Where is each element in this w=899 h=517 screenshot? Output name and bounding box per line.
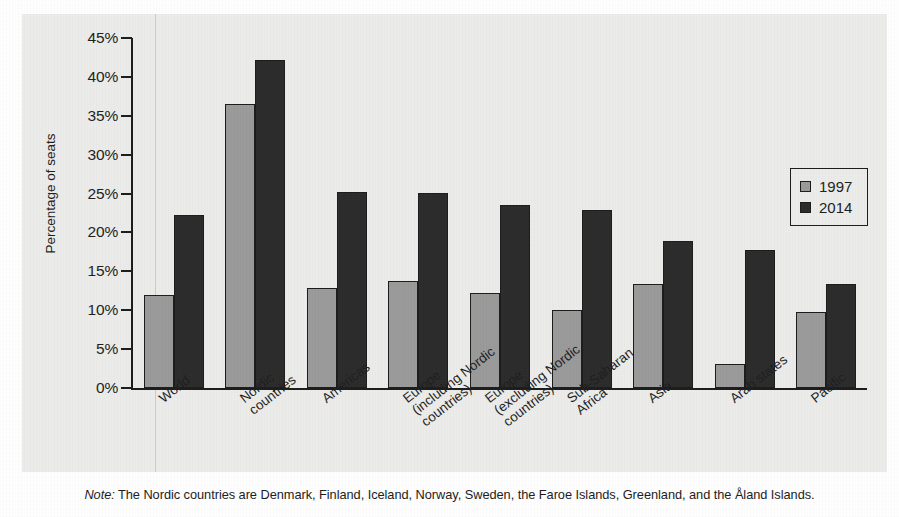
- y-axis-tick-label-text: 10%: [18, 301, 118, 319]
- legend-label-1997: 1997: [819, 178, 852, 195]
- y-axis-tick-label-text: 30%: [18, 146, 118, 164]
- chart-note: Note: The Nordic countries are Denmark, …: [0, 487, 899, 502]
- y-axis-tick-label: 30%: [14, 146, 118, 164]
- legend-item-1997[interactable]: 1997: [800, 176, 859, 197]
- plot-area: [133, 38, 867, 388]
- y-axis-tick-label: 5%: [14, 340, 118, 358]
- bar-2014-nordic-countries[interactable]: [255, 60, 285, 388]
- bar-1997-americas[interactable]: [307, 288, 337, 388]
- y-axis-tick-label: 0%: [14, 379, 118, 397]
- bar-2014-world[interactable]: [174, 215, 204, 388]
- y-axis-tick-label-text: 25%: [18, 185, 118, 203]
- grouped-bar-chart: Percentage of seats 45%40%35%30%25%20%15…: [0, 0, 899, 517]
- y-axis-tick-label: 10%: [14, 301, 118, 319]
- y-axis-tick-label: 45%: [14, 29, 118, 47]
- y-axis-tick-label: 40%: [14, 68, 118, 86]
- legend-label-2014: 2014: [819, 199, 852, 216]
- gray-swatch-icon: [800, 181, 811, 192]
- bar-1997-nordic-countries[interactable]: [225, 104, 255, 388]
- y-axis-tick-label-text: 5%: [18, 340, 118, 358]
- note-text: The Nordic countries are Denmark, Finlan…: [115, 487, 815, 502]
- y-axis-tick-label-text: 40%: [18, 68, 118, 86]
- bar-1997-world[interactable]: [144, 295, 174, 388]
- chart-screenshot: Percentage of seats 45%40%35%30%25%20%15…: [0, 0, 899, 517]
- dark-swatch-icon: [800, 202, 811, 213]
- bar-1997-europe-including-nordic-countries[interactable]: [388, 281, 418, 388]
- y-axis-tick-label-text: 0%: [18, 379, 118, 397]
- legend[interactable]: 1997 2014: [790, 168, 868, 226]
- bar-1997-pacific[interactable]: [796, 312, 826, 388]
- y-axis-tick-label: 35%: [14, 107, 118, 125]
- note-prefix: Note:: [84, 487, 114, 502]
- y-axis-tick-label-text: 15%: [18, 262, 118, 280]
- legend-item-2014[interactable]: 2014: [800, 197, 859, 218]
- y-axis-tick-label: 15%: [14, 262, 118, 280]
- y-axis-tick-label: 20%: [14, 223, 118, 241]
- y-axis-tick-label: 25%: [14, 185, 118, 203]
- y-axis-tick-label-text: 35%: [18, 107, 118, 125]
- y-axis-tick-label-text: 45%: [18, 29, 118, 47]
- y-axis-tick-label-text: 20%: [18, 223, 118, 241]
- bar-2014-asia[interactable]: [663, 241, 693, 388]
